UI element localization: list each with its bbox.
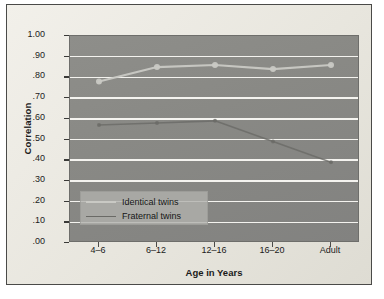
chart-legend: Identical twins Fraternal twins: [80, 191, 208, 225]
y-axis-tick-label: .00: [5, 236, 45, 246]
y-axis-tick-label: 1.00: [5, 29, 45, 39]
x-axis-tick-mark: [98, 242, 99, 247]
y-axis-tick-label: .40: [5, 153, 45, 163]
x-axis-tick-mark: [330, 242, 331, 247]
data-point-marker: [271, 140, 275, 144]
x-axis-tick-mark: [156, 242, 157, 247]
data-point-marker: [155, 121, 159, 125]
data-point-marker: [212, 62, 218, 68]
y-axis-tick-label: .30: [5, 174, 45, 184]
data-point-marker: [97, 123, 101, 127]
plot-area: Identical twins Fraternal twins: [69, 35, 359, 242]
legend-label-fraternal: Fraternal twins: [122, 211, 181, 221]
data-point-marker: [328, 62, 334, 68]
data-point-marker: [213, 119, 217, 123]
legend-swatch-fraternal: [86, 216, 116, 217]
y-axis-tick-label: .60: [5, 112, 45, 122]
series-line: [99, 121, 331, 162]
y-axis-tick-label: .50: [5, 133, 45, 143]
legend-item: Fraternal twins: [86, 209, 202, 223]
legend-item: Identical twins: [86, 195, 202, 209]
data-point-marker: [329, 160, 333, 164]
x-axis-title: Age in Years: [69, 267, 359, 278]
y-axis-tick-label: .70: [5, 91, 45, 101]
x-axis-tick-mark: [214, 242, 215, 247]
data-point-marker: [154, 64, 160, 70]
y-axis-tick-label: .10: [5, 215, 45, 225]
data-point-marker: [270, 66, 276, 72]
figure-frame: Correlation Age in Years 1.00.90.80.70.6…: [6, 4, 372, 285]
y-axis-tick-label: .80: [5, 70, 45, 80]
legend-swatch-identical: [86, 201, 116, 203]
x-axis-tick-mark: [272, 242, 273, 247]
data-point-marker: [96, 79, 102, 85]
y-axis-tick-label: .90: [5, 50, 45, 60]
legend-label-identical: Identical twins: [122, 197, 179, 207]
y-axis-tick-mark: [64, 242, 69, 243]
y-axis-tick-label: .20: [5, 195, 45, 205]
